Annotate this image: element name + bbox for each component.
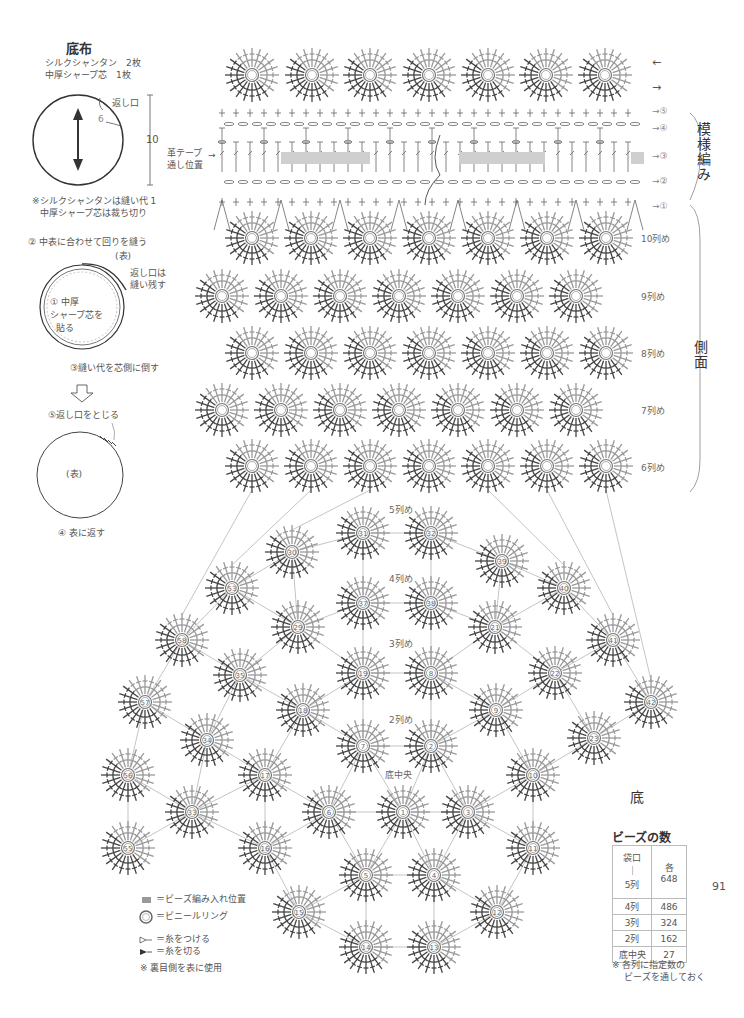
bottom-section-label: 底 <box>630 786 644 806</box>
round-marker-5: →⑤ <box>652 106 668 117</box>
side-motif <box>431 383 485 437</box>
svg-text:57: 57 <box>141 699 150 707</box>
side-section-label: 側面 <box>690 340 710 370</box>
row-value: 324 <box>652 915 687 931</box>
svg-text:12: 12 <box>493 909 502 917</box>
svg-text:9: 9 <box>494 707 498 715</box>
table-row: 3列 324 <box>613 915 687 931</box>
beads-count-table: 袋口 ｜ 5列 各 648 4列 486 3列 324 2列 162 底中央 2… <box>612 845 687 963</box>
bottom-motif-39: 39 <box>475 534 529 588</box>
svg-text:3: 3 <box>466 809 470 817</box>
side-motif <box>579 211 633 265</box>
bottom-motif-6: 6 <box>302 785 356 839</box>
side-motif <box>579 326 633 380</box>
top-motif <box>578 48 632 102</box>
bottom-motif-37: 37 <box>336 576 390 630</box>
row-label: 3列 <box>613 915 652 931</box>
legend-cut-yarn: ＝糸を切る <box>156 946 201 957</box>
bottom-motif-3: 3 <box>441 785 495 839</box>
bottom-motif-15: 15 <box>272 885 326 939</box>
step-3-label: ③縫い代を芯側に倒す <box>70 363 159 374</box>
row-value: 486 <box>652 899 687 915</box>
side-motif <box>225 326 279 380</box>
bottom-row-2-label: 2列め <box>389 713 413 726</box>
bottom-motif-12: 12 <box>470 885 524 939</box>
beads-count-title: ビーズの数 <box>612 828 671 845</box>
bottom-motif-7: 7 <box>336 719 390 773</box>
bottom-motif-56: 56 <box>101 748 155 802</box>
row-value: 各 648 <box>652 846 687 899</box>
svg-text:23: 23 <box>590 735 599 743</box>
side-motif <box>461 439 515 493</box>
side-motif <box>372 383 426 437</box>
side-row-6-label: 6列め <box>641 461 665 474</box>
round-marker-3: →③ <box>652 151 668 162</box>
top-motif <box>285 48 339 102</box>
direction-arrow-left: ← <box>652 56 661 70</box>
tape-label-1: 革テープ <box>167 148 202 159</box>
bottom-motif-30: 30 <box>265 525 319 579</box>
beads-note-2: ビーズを通しておく <box>624 972 705 983</box>
svg-text:17: 17 <box>261 772 270 780</box>
svg-text:6: 6 <box>327 809 332 817</box>
bottom-motif-21: 21 <box>468 600 522 654</box>
side-motif <box>313 269 367 323</box>
legend-note: ※ 裏目側を表に使用 <box>140 963 222 974</box>
bottom-motif-31: 31 <box>336 506 390 560</box>
bottom-motif-34: 34 <box>180 713 234 767</box>
top-motif <box>343 48 397 102</box>
side-motif <box>549 269 603 323</box>
bottom-motif-4: 4 <box>407 848 461 902</box>
tape-label-2: 通し位置 <box>167 160 203 171</box>
step-2-label: ② 中表に合わせて回りを縫う <box>28 237 147 248</box>
svg-text:11: 11 <box>529 845 538 853</box>
svg-text:55: 55 <box>124 845 133 853</box>
side-motif <box>579 439 633 493</box>
bottom-motif-29: 29 <box>271 600 325 654</box>
side-motif <box>343 211 397 265</box>
side-motif <box>225 439 279 493</box>
row-label: 2列 <box>613 931 652 947</box>
side-motif <box>490 383 544 437</box>
side-motif <box>520 326 574 380</box>
bottom-motif-5: 5 <box>339 848 393 902</box>
side-motif <box>549 383 603 437</box>
bottom-motif-13: 13 <box>407 920 461 974</box>
down-arrow-icon <box>71 385 93 402</box>
bottom-row-4-label: 4列め <box>389 572 413 585</box>
side-motif <box>284 439 338 493</box>
bottom-motif-22: 22 <box>528 646 582 700</box>
bottom-motif-16: 16 <box>238 821 292 875</box>
side-motif <box>402 326 456 380</box>
opening-note-1: 返し口は <box>130 268 166 279</box>
bottom-motif-57: 57 <box>118 675 172 729</box>
bottom-motif-41: 41 <box>586 613 640 667</box>
leather-tape-position-1 <box>281 152 370 164</box>
side-motif <box>343 439 397 493</box>
face-label: (表) <box>115 251 131 262</box>
step-1-line-2: シャープ芯を <box>50 310 103 321</box>
row-label: 袋口 ｜ 5列 <box>613 846 652 899</box>
side-motif <box>402 439 456 493</box>
row-label: 4列 <box>613 899 652 915</box>
side-row-9-label: 9列め <box>641 290 665 303</box>
svg-text:31: 31 <box>359 530 368 538</box>
svg-text:34: 34 <box>203 737 212 745</box>
side-motif <box>520 439 574 493</box>
table-row: 2列 162 <box>613 931 687 947</box>
side-motif <box>195 383 249 437</box>
pattern-stitch-section-label: 模様編み <box>693 122 713 182</box>
step-5-label: ⑤返し口をとじる <box>48 410 119 421</box>
svg-text:8: 8 <box>429 670 433 678</box>
step-1-line-1: ① 中厚 <box>50 297 79 308</box>
round-marker-4: →④ <box>652 123 668 134</box>
bottom-motif-33: 33 <box>165 785 219 839</box>
seam-note-2: 中厚シャープ芯は裁ち切り <box>40 208 147 219</box>
svg-text:33: 33 <box>188 809 197 817</box>
top-motif <box>402 48 456 102</box>
bottom-row-3-label: 3列め <box>389 637 413 650</box>
bottom-motif-18: 18 <box>276 683 330 737</box>
top-motif <box>519 48 573 102</box>
side-motif <box>195 269 249 323</box>
svg-text:18: 18 <box>299 707 308 715</box>
